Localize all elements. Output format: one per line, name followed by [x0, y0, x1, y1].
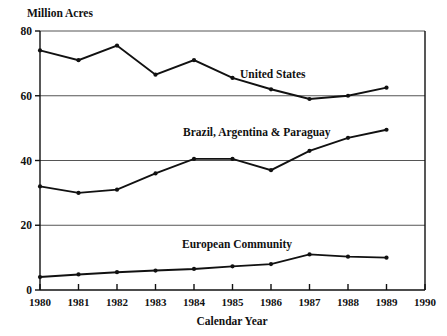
y-axis-ticks: 020406080	[21, 25, 41, 296]
x-axis-ticks: 1980198119821983198419851986198719881989…	[29, 284, 437, 308]
series-label-united-states: United States	[240, 68, 306, 80]
x-tick-label-1987: 1987	[299, 296, 322, 308]
data-point	[384, 128, 388, 132]
y-tick-label-20: 20	[21, 219, 33, 231]
data-point	[192, 267, 196, 271]
series-line-2	[40, 254, 387, 277]
data-point	[76, 58, 80, 62]
x-tick-label-1986: 1986	[260, 296, 283, 308]
data-point	[230, 157, 234, 161]
data-point	[346, 136, 350, 140]
x-tick-label-1981: 1981	[68, 296, 90, 308]
data-point	[38, 275, 42, 279]
x-tick-label-1990: 1990	[414, 296, 437, 308]
series-line-0	[40, 46, 387, 99]
data-point	[384, 86, 388, 90]
data-point	[346, 255, 350, 259]
data-point	[115, 270, 119, 274]
data-point	[115, 43, 119, 47]
data-point	[269, 87, 273, 91]
series-label-brazil-argentina-paraguay: Brazil, Argentina & Paraguay	[183, 126, 331, 139]
data-point	[192, 58, 196, 62]
data-point	[153, 171, 157, 175]
data-point	[230, 76, 234, 80]
y-tick-label-40: 40	[21, 155, 33, 167]
x-tick-label-1982: 1982	[106, 296, 129, 308]
x-tick-label-1988: 1988	[337, 296, 360, 308]
data-point	[153, 73, 157, 77]
x-tick-label-1989: 1989	[376, 296, 399, 308]
series-0	[38, 43, 389, 101]
data-point	[76, 191, 80, 195]
data-point	[346, 94, 350, 98]
data-point	[76, 272, 80, 276]
series-label-european-community: European Community	[182, 238, 292, 251]
y-tick-label-0: 0	[26, 284, 32, 296]
series-2	[38, 252, 389, 279]
x-tick-label-1984: 1984	[183, 296, 206, 308]
data-point	[307, 252, 311, 256]
data-point	[153, 268, 157, 272]
data-point	[307, 149, 311, 153]
data-point	[269, 262, 273, 266]
x-tick-label-1980: 1980	[29, 296, 52, 308]
series-line-1	[40, 130, 387, 193]
line-chart: Million Acres 020406080 1980198119821983…	[0, 0, 447, 336]
y-axis-title: Million Acres	[27, 7, 93, 19]
data-point	[269, 168, 273, 172]
y-tick-label-80: 80	[21, 25, 33, 37]
x-axis-title: Calendar Year	[196, 315, 267, 327]
data-point	[115, 188, 119, 192]
data-point	[384, 256, 388, 260]
data-point	[38, 184, 42, 188]
data-point	[307, 97, 311, 101]
chart-svg: Million Acres 020406080 1980198119821983…	[0, 0, 447, 336]
data-point	[192, 157, 196, 161]
y-tick-label-60: 60	[21, 90, 33, 102]
x-tick-label-1985: 1985	[222, 296, 245, 308]
data-point	[38, 48, 42, 52]
data-point	[230, 264, 234, 268]
x-tick-label-1983: 1983	[145, 296, 168, 308]
